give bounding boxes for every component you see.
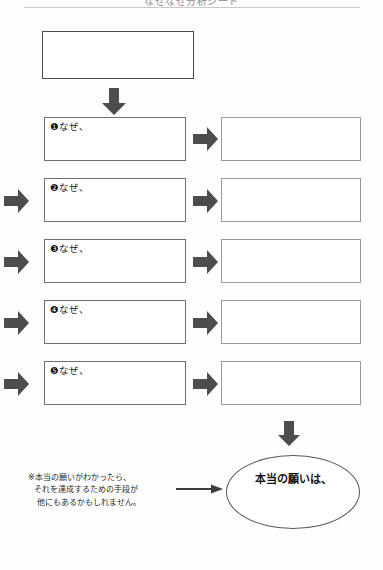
why-label-3: ❸なぜ、 [50,244,180,254]
why-box-1[interactable]: ❶なぜ、 [44,117,186,161]
answer-box-5[interactable] [221,361,361,405]
answer-box-4[interactable] [221,300,361,344]
answer-box-3[interactable] [221,239,361,283]
why-box-4[interactable]: ❹なぜ、 [44,300,186,344]
down-arrow-icon [101,88,127,116]
why-label-5: ❺なぜ、 [50,366,180,376]
why-label-1: ❶なぜ、 [50,122,180,132]
true-wish-ellipse[interactable]: 本当の願いは、 [226,455,360,529]
line-arrow-icon [176,483,224,495]
right-arrow-icon [193,188,219,214]
right-arrow-icon [4,249,30,275]
theme-box[interactable] [42,31,194,79]
why-box-2[interactable]: ❷なぜ、 [44,178,186,222]
footnote-line-1: ※本当の願いがわかったら、 [28,472,141,484]
why-box-5[interactable]: ❺なぜ、 [44,361,186,405]
right-arrow-icon [193,126,219,152]
answer-box-1[interactable] [221,117,361,161]
page-title: なぜなぜ分析シート [0,0,383,7]
down-arrow-icon [277,421,301,447]
right-arrow-icon [193,310,219,336]
footnote: ※本当の願いがわかったら、 それを達成するための手段が 他にもあるかもしれません… [28,472,141,509]
footnote-line-2: それを達成するための手段が [28,484,141,496]
page-header: なぜなぜ分析シート [0,0,383,7]
true-wish-label: 本当の願いは、 [227,470,359,486]
why-label-2: ❷なぜ、 [50,183,180,193]
right-arrow-icon [193,371,219,397]
why-box-3[interactable]: ❸なぜ、 [44,239,186,283]
answer-box-2[interactable] [221,178,361,222]
right-arrow-icon [4,371,30,397]
why-label-4: ❹なぜ、 [50,305,180,315]
header-divider [24,7,360,8]
right-arrow-icon [4,188,30,214]
right-arrow-icon [4,310,30,336]
worksheet-canvas: なぜなぜ分析シート ❶なぜ、 ❷なぜ、 [0,0,383,570]
footnote-line-3: 他にもあるかもしれません。 [28,497,141,509]
right-arrow-icon [193,249,219,275]
